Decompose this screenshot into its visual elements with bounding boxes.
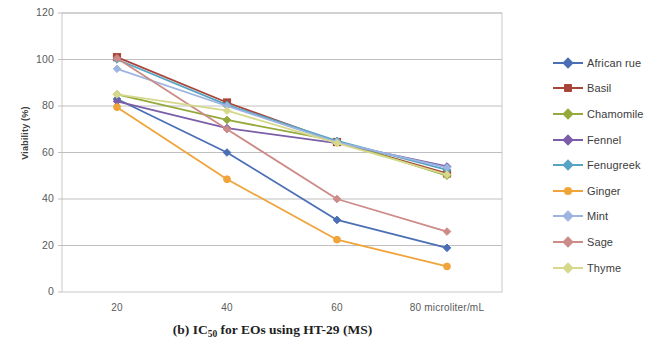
legend-swatch-icon [553,134,583,146]
legend-item-mint[interactable]: Mint [553,204,655,230]
legend-item-sage[interactable]: Sage [553,229,655,255]
line-chart-plot [0,0,545,318]
y-tick-label: 80 [20,99,54,111]
caption-prefix: (b) IC [173,322,208,337]
x-tick-label: 20 [111,302,123,313]
legend-item-chamomile[interactable]: Chamomile [553,101,655,127]
legend-item-fenugreek[interactable]: Fenugreek [553,152,655,178]
legend-item-ginger[interactable]: Ginger [553,178,655,204]
legend-label: Chamomile [587,108,644,120]
chart-legend: African rueBasilChamomileFennelFenugreek… [553,50,655,280]
x-tick-label: 60 [331,302,343,313]
x-tick-label: 80 microliter/mL [410,302,484,313]
data-point [224,176,231,183]
y-tick-label: 40 [20,192,54,204]
legend-swatch-icon [553,262,583,274]
y-tick-label: 60 [20,146,54,158]
caption-subscript: 50 [208,329,218,339]
data-point [114,104,121,111]
legend-swatch-icon [553,236,583,248]
y-tick-label: 100 [20,53,54,65]
legend-label: Thyme [587,262,621,274]
legend-label: Sage [587,236,613,248]
legend-label: Ginger [587,185,621,197]
legend-swatch-icon [553,159,583,171]
legend-item-african-rue[interactable]: African rue [553,50,655,76]
data-point [444,263,451,270]
y-tick-label: 120 [20,6,54,18]
x-tick-label: 40 [221,302,233,313]
legend-item-fennel[interactable]: Fennel [553,127,655,153]
chart-area: Viability (%) 02040608010012020406080 mi… [0,0,545,318]
legend-label: Basil [587,82,611,94]
legend-swatch-icon [553,57,583,69]
legend-swatch-icon [553,108,583,120]
figure-caption: (b) IC50 for EOs using HT-29 (MS) [0,322,545,338]
legend-label: Fennel [587,134,621,146]
legend-item-basil[interactable]: Basil [553,76,655,102]
data-point [334,236,341,243]
legend-item-thyme[interactable]: Thyme [553,255,655,281]
caption-suffix: for EOs using HT-29 (MS) [217,322,372,337]
y-tick-label: 20 [20,239,54,251]
legend-label: Mint [587,210,608,222]
legend-label: African rue [587,57,641,69]
legend-label: Fenugreek [587,159,641,171]
legend-swatch-icon [553,82,583,94]
figure: Viability (%) 02040608010012020406080 mi… [0,0,655,349]
legend-swatch-icon [553,210,583,222]
y-tick-label: 0 [20,285,54,297]
legend-swatch-icon [553,185,583,197]
